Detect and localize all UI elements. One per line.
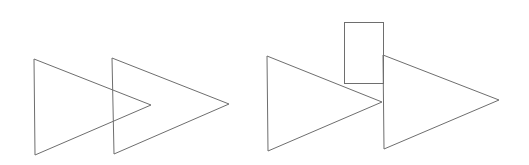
left-triangle-pair	[34, 58, 229, 155]
diagram-canvas	[0, 0, 529, 165]
diagram-svg	[0, 0, 529, 165]
rectangle	[345, 23, 384, 84]
triangle-3	[267, 56, 382, 151]
triangle-1	[34, 59, 151, 155]
right-shape-group	[267, 23, 499, 152]
triangle-4	[383, 55, 499, 149]
triangle-2	[112, 58, 229, 154]
